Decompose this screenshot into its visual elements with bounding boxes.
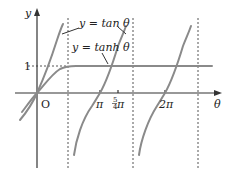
x-axis-label: θ [214,98,221,111]
x-axis-arrow-icon [214,90,222,96]
x-tick-pi-label: π [95,98,104,111]
origin-label: O [41,98,50,111]
x-tick-five-quarter-pi: π [116,98,125,111]
y-axis-arrow-icon [34,8,40,16]
x-tick-two-pi-label: 2π [158,98,174,111]
y-axis-label: y [24,7,32,20]
tan-tanh-diagram: y θ O 1 π 5 4 π 2π y = tan θ y = tanh θ [0,0,233,173]
tan-leader-left [62,28,79,34]
y-tick-1-label: 1 [24,60,31,73]
tanh-curve-label: y = tanh θ [71,41,130,54]
tan-curve-label: y = tan θ [78,17,130,30]
tanh-leader [102,53,108,64]
